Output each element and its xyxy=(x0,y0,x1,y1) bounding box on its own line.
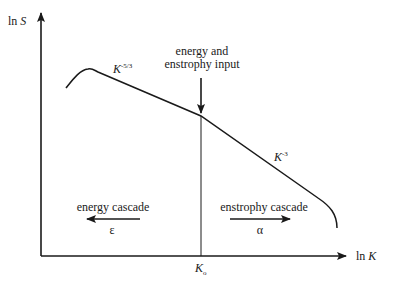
y-axis-label-var: S xyxy=(20,14,26,28)
spectrum-diagram xyxy=(0,0,393,286)
energy-cascade-symbol: ε xyxy=(102,224,122,237)
input-label-line-2: enstrophy input xyxy=(162,58,242,71)
k0-label-sub: o xyxy=(203,269,207,277)
slope-left-exp: -5/3 xyxy=(121,62,132,70)
slope-left-var: K xyxy=(113,62,121,76)
slope-right-label: K-3 xyxy=(274,148,288,164)
y-axis-label: ln S xyxy=(8,15,26,28)
slope-right-var: K xyxy=(274,150,282,164)
slope-right-exp: -3 xyxy=(282,150,288,158)
x-axis-label-var: K xyxy=(368,249,376,263)
enstrophy-cascade-symbol: α xyxy=(250,224,270,237)
slope-left-label: K-5/3 xyxy=(113,60,132,76)
x-axis-label: ln K xyxy=(356,250,376,263)
enstrophy-cascade-label: enstrophy cascade xyxy=(214,201,314,214)
k0-label-var: K xyxy=(195,261,203,275)
input-label: energy and enstrophy input xyxy=(162,45,242,71)
y-axis-label-prefix: ln xyxy=(8,14,17,28)
k0-label: Ko xyxy=(195,262,207,280)
x-axis-label-prefix: ln xyxy=(356,249,365,263)
energy-cascade-label: energy cascade xyxy=(68,201,158,214)
